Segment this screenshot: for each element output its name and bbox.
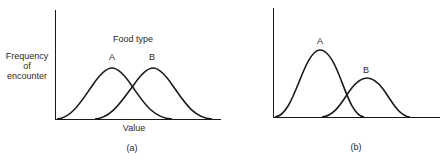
panel-a-x-axis-label: Value: [123, 123, 145, 133]
panel-a-curve-A-label: A: [109, 52, 115, 62]
y-label-line-2: of: [2, 61, 52, 71]
panel-b-curve-B: [322, 78, 410, 117]
y-label-line-3: encounter: [2, 71, 52, 81]
panel-b-axes: [273, 8, 440, 118]
panel-b-caption: (b): [351, 142, 362, 152]
panel-a-title: Food type: [113, 34, 153, 44]
panel-a-curve-B-label: B: [149, 52, 155, 62]
panel-a-curve-A: [57, 68, 172, 119]
y-label-line-1: Frequency: [2, 51, 52, 61]
panel-a-caption: (a): [127, 143, 138, 153]
panel-b-curve-A: [275, 50, 364, 117]
diagram-canvas: [0, 0, 444, 160]
panel-b-curve-B-label: B: [363, 65, 369, 75]
panel-b-curve-A-label: A: [317, 36, 323, 46]
panel-a-y-axis-label: Frequency of encounter: [2, 51, 52, 81]
